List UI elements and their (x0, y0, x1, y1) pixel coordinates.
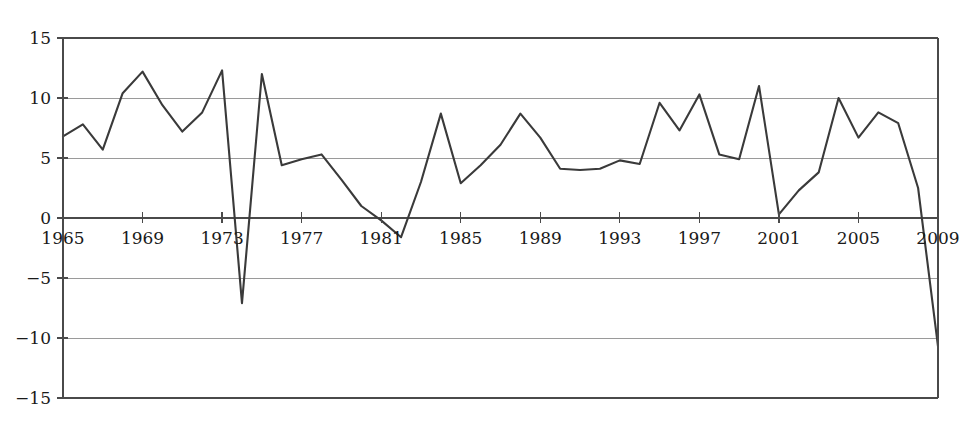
y-tick-label: −5 (26, 268, 51, 288)
y-tick-label: 5 (40, 148, 51, 168)
x-axis-labels: 1965196919731977198119851989199319972001… (41, 228, 959, 248)
x-tick-label: 1973 (200, 228, 243, 248)
data-series-line (63, 70, 938, 346)
x-tick-label: 2001 (757, 228, 800, 248)
chart-canvas: 151050−5−10−1519651969197319771981198519… (0, 0, 975, 429)
y-tick-label: −10 (15, 328, 51, 348)
y-tick-label: 10 (29, 88, 51, 108)
x-tick-label: 1989 (519, 228, 562, 248)
x-tick-label: 1997 (678, 228, 721, 248)
x-tick-label: 1969 (121, 228, 164, 248)
x-tick-label: 2009 (916, 228, 959, 248)
x-tick-label: 1965 (41, 228, 84, 248)
y-tick-label: −15 (15, 388, 51, 408)
line-chart: 151050−5−10−1519651969197319771981198519… (0, 0, 975, 429)
gridlines-group (63, 38, 938, 398)
x-tick-label: 2005 (837, 228, 880, 248)
y-tick-label: 0 (40, 208, 51, 228)
y-axis-labels: 151050−5−10−15 (15, 28, 51, 408)
series-group (63, 70, 938, 346)
x-tick-label: 1981 (360, 228, 403, 248)
y-tick-label: 15 (29, 28, 51, 48)
x-tick-label: 1977 (280, 228, 323, 248)
x-tick-label: 1985 (439, 228, 482, 248)
x-tick-label: 1993 (598, 228, 641, 248)
